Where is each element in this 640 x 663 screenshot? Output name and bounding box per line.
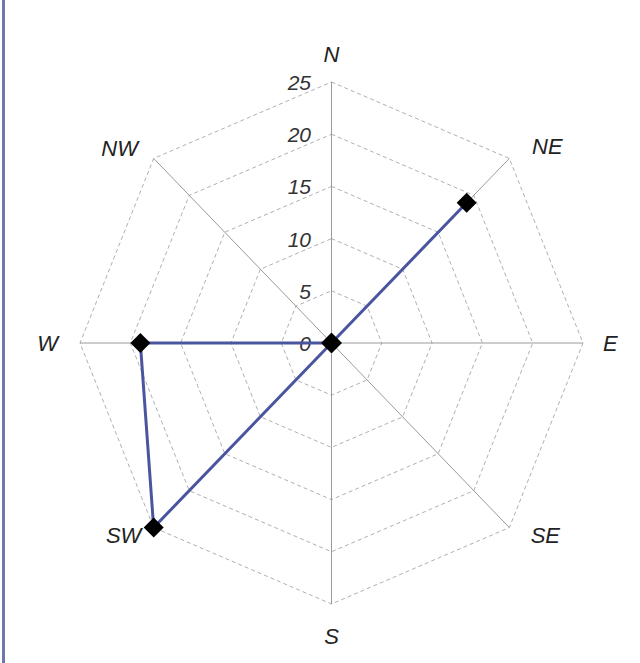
direction-label-se: SE xyxy=(531,523,561,548)
axis-spoke-se xyxy=(332,343,510,528)
direction-label-w: W xyxy=(37,331,60,356)
tick-label-25: 25 xyxy=(287,71,312,94)
tick-label-10: 10 xyxy=(288,228,312,251)
tick-label-5: 5 xyxy=(299,280,311,303)
direction-label-n: N xyxy=(324,42,340,67)
tick-label-20: 20 xyxy=(287,123,312,146)
direction-label-sw: SW xyxy=(106,523,144,548)
tick-label-15: 15 xyxy=(288,175,312,198)
direction-label-e: E xyxy=(603,331,618,356)
radial-tick-labels: 0510152025 xyxy=(287,71,312,355)
direction-label-ne: NE xyxy=(532,134,563,159)
direction-label-nw: NW xyxy=(101,136,140,161)
radar-chart: 0510152025 NNEESESSWWNW xyxy=(0,0,640,663)
direction-label-s: S xyxy=(324,624,339,649)
